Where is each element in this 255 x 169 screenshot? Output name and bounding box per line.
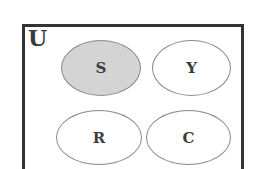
set-y-label: Y bbox=[186, 59, 197, 77]
set-r: R bbox=[56, 110, 142, 165]
set-c: C bbox=[146, 110, 231, 165]
set-r-label: R bbox=[93, 129, 105, 147]
universe-label: U bbox=[28, 27, 47, 49]
set-s: S bbox=[61, 40, 141, 96]
set-s-label: S bbox=[96, 59, 107, 77]
set-c-label: C bbox=[183, 129, 195, 147]
set-y: Y bbox=[152, 40, 231, 96]
